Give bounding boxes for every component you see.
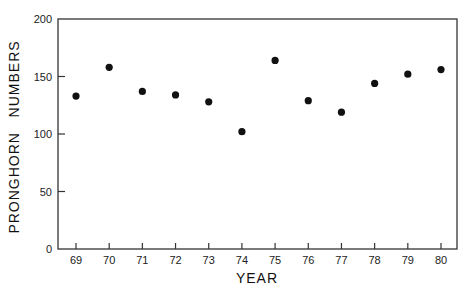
y-tick-label: 150 (34, 71, 52, 83)
x-axis-ticks: 697071727374757677787980 (70, 243, 447, 266)
x-tick-label: 71 (136, 254, 148, 266)
y-axis-title: PRONGHORN NUMBERS (6, 40, 22, 233)
x-tick-label: 80 (435, 254, 447, 266)
x-tick-label: 74 (236, 254, 248, 266)
x-tick-label: 69 (70, 254, 82, 266)
x-tick-label: 78 (369, 254, 381, 266)
data-point (72, 92, 79, 99)
data-point (437, 66, 444, 73)
x-axis-title: YEAR (236, 270, 278, 286)
data-point (338, 109, 345, 116)
data-point (238, 128, 245, 135)
data-point (172, 91, 179, 98)
scatter-chart: 050100150200 697071727374757677787980 YE… (0, 0, 468, 293)
data-point (404, 71, 411, 78)
x-tick-label: 76 (302, 254, 314, 266)
y-tick-label: 50 (40, 186, 52, 198)
data-point (205, 98, 212, 105)
x-tick-label: 72 (169, 254, 181, 266)
y-tick-label: 200 (34, 13, 52, 25)
x-tick-label: 79 (402, 254, 414, 266)
data-point (371, 80, 378, 87)
y-tick-label: 100 (34, 128, 52, 140)
data-point (271, 57, 278, 64)
x-tick-label: 73 (203, 254, 215, 266)
x-tick-label: 75 (269, 254, 281, 266)
data-points (72, 57, 444, 135)
data-point (106, 64, 113, 71)
plot-frame (58, 19, 457, 249)
y-tick-label: 0 (46, 243, 52, 255)
plot-border (58, 19, 457, 249)
y-axis-ticks: 050100150200 (34, 13, 65, 255)
x-tick-label: 77 (335, 254, 347, 266)
x-tick-label: 70 (103, 254, 115, 266)
data-point (139, 88, 146, 95)
data-point (305, 97, 312, 104)
